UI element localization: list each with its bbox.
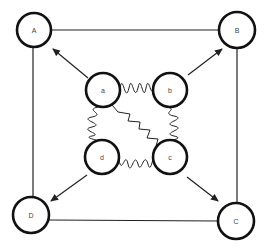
node-a[interactable]: a [86,73,120,107]
wavy-c-d [119,157,155,168]
diagram-canvas: A B C D a b c d [0,0,269,251]
node-d[interactable]: d [85,140,119,174]
arrow-d-to-D [51,175,87,201]
node-C-label: C [233,218,238,225]
node-D-label: D [28,212,33,219]
arrow-b-to-B [188,49,222,75]
node-A[interactable]: A [17,13,51,47]
node-d-label: d [100,154,104,161]
wavy-b-c [166,107,178,141]
arrows [51,49,222,201]
node-b[interactable]: b [153,73,187,107]
edge-C-D [49,220,218,221]
inner-nodes: a b c d [85,73,187,174]
wavy-a-b [120,83,155,93]
node-c-label: c [168,154,172,161]
node-c[interactable]: c [153,140,187,174]
outer-nodes: A B C D [13,12,255,239]
arrow-c-to-C [187,177,218,201]
wavy-a-c [112,105,163,146]
node-D[interactable]: D [13,197,49,233]
arrow-a-to-A [53,49,88,78]
node-B[interactable]: B [219,12,255,48]
node-C[interactable]: C [218,203,254,239]
node-B-label: B [235,27,240,34]
node-A-label: A [32,27,37,34]
node-b-label: b [168,87,172,94]
wavy-d-a [88,107,98,141]
node-a-label: a [101,87,105,94]
